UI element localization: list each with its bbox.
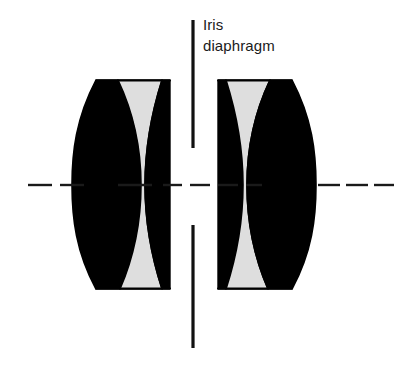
iris-diaphragm-label-line-1: Iris [203,14,275,35]
iris-diaphragm-label-line-2: diaphragm [203,35,275,56]
diagram-canvas [0,0,398,368]
optical-diagram-figure: Iris diaphragm [0,0,398,368]
iris-diaphragm-label: Iris diaphragm [203,14,275,56]
